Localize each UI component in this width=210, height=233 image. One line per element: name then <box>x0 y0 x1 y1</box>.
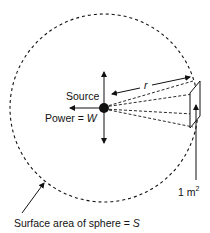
sphere-variable: S <box>133 217 140 229</box>
radius-arrow-right <box>152 77 190 85</box>
radius-label: r <box>144 80 148 91</box>
cone-lines <box>104 81 193 127</box>
sphere-power-diagram: Source Power = W r 1 m2 Surface area of … <box>0 0 210 233</box>
sphere-label: Surface area of sphere = S <box>14 218 140 229</box>
area-exponent: 2 <box>196 185 200 192</box>
area-label: 1 m2 <box>178 185 199 197</box>
area-value: 1 m <box>178 186 196 198</box>
power-variable: W <box>87 112 97 124</box>
power-label: Power = W <box>45 113 97 124</box>
diagram-graphics <box>0 0 210 233</box>
source-dot <box>99 103 109 113</box>
sphere-pointer <box>22 183 44 213</box>
radius-arrow-left <box>112 88 140 94</box>
power-label-text: Power = <box>45 112 87 124</box>
source-label: Source <box>66 91 99 102</box>
unit-area-panel <box>190 81 200 128</box>
sphere-label-text: Surface area of sphere = <box>14 217 133 229</box>
